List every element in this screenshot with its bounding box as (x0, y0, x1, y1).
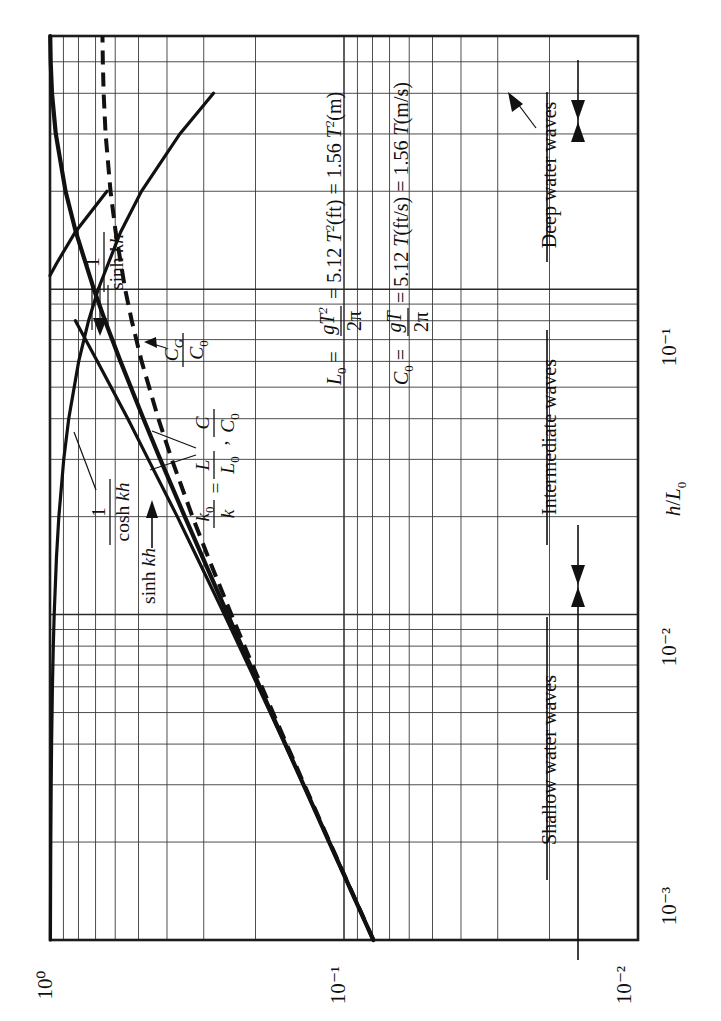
comma-separator: , (210, 441, 231, 446)
x-tick-1e-3: 10⁻³ (657, 887, 681, 925)
inv-sinh-denominator: sinh kh (106, 234, 127, 290)
C0-fraction-numerator: gT (383, 310, 406, 333)
wave-parameters-loglog-chart: 10⁻³ 10⁻² 10⁻¹ h/L0 10⁻² 10⁻¹ 10⁰ 1 sinh… (0, 0, 721, 1021)
region-label-shallow: Shallow water waves (538, 675, 560, 845)
k-denominator: k (217, 509, 238, 518)
C0-fraction-denominator: 2π (410, 312, 432, 332)
L0-fraction-denominator: 2π (343, 311, 365, 331)
figure-canvas: 10⁻³ 10⁻² 10⁻¹ h/L0 10⁻² 10⁻¹ 10⁰ 1 sinh… (0, 0, 721, 1021)
x-tick-1e-1: 10⁻¹ (657, 328, 681, 366)
y-tick-1e-2: 10⁻² (612, 966, 636, 1004)
equation-C0-fraction: gT 2π (383, 308, 432, 336)
inv-cosh-denominator: cosh kh (112, 482, 133, 541)
y-tick-1e-1: 10⁻¹ (326, 966, 350, 1004)
equals-sign: = (205, 483, 226, 494)
equation-C0-rhs: = 5.12 T(ft/s) = 1.56 T(m/s) (390, 82, 413, 303)
region-label-intermediate: Intermediate waves (538, 359, 560, 515)
region-label-deep: Deep water waves (538, 101, 561, 248)
C-numerator: C (192, 416, 213, 430)
label-sinh-kh: sinh kh (138, 548, 159, 604)
y-tick-1e0: 10⁰ (33, 971, 57, 1000)
inv-sinh-numerator: 1 (82, 257, 103, 267)
L-numerator: L (192, 460, 213, 472)
x-tick-1e-2: 10⁻² (657, 628, 681, 666)
inv-cosh-numerator: 1 (88, 507, 109, 517)
